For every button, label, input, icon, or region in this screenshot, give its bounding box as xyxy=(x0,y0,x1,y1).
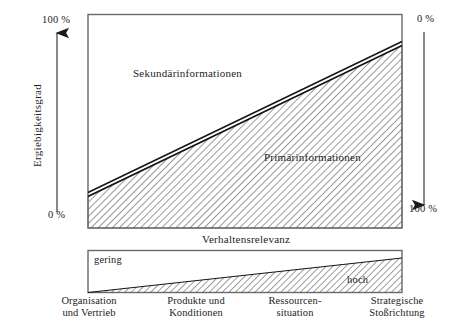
category-line-1: Produkte und xyxy=(147,295,245,307)
category-line-1: Ressourcen- xyxy=(247,295,343,307)
figure-root: Ergiebigkeitsgrad 100 % 0 % 0 % 100 % Se… xyxy=(0,0,459,325)
category-label-ressourcensituation: Ressourcen- situation xyxy=(247,295,343,319)
right-axis-top-value: 0 % xyxy=(417,13,434,25)
region-label-sekundaerinformationen: Sekundärinformationen xyxy=(133,67,242,79)
y-axis-title: Ergiebigkeitsgrad xyxy=(31,84,43,167)
category-label-produkte-und-konditionen: Produkte und Konditionen xyxy=(147,295,245,319)
category-line-2: und Vertrieb xyxy=(40,307,138,319)
category-line-2: situation xyxy=(247,307,343,319)
band-label-gering: gering xyxy=(94,254,122,266)
category-label-strategische-stossrichtung: Strategische Stoßrichtung xyxy=(348,295,446,319)
category-line-1: Organisation xyxy=(40,295,138,307)
left-axis-bottom-value: 0 % xyxy=(48,209,65,221)
region-label-primaerinformationen: Primärinformationen xyxy=(264,151,361,163)
category-label-organisation-und-vertrieb: Organisation und Vertrieb xyxy=(40,295,138,319)
diagram-canvas xyxy=(0,0,459,325)
band-label-hoch: hoch xyxy=(347,274,368,286)
left-axis-top-value: 100 % xyxy=(42,14,70,26)
category-line-2: Konditionen xyxy=(147,307,245,319)
right-axis-bottom-value: 100 % xyxy=(409,203,437,215)
x-axis-title: Verhaltensrelevanz xyxy=(202,233,290,245)
category-line-1: Strategische xyxy=(348,295,446,307)
category-line-2: Stoßrichtung xyxy=(348,307,446,319)
